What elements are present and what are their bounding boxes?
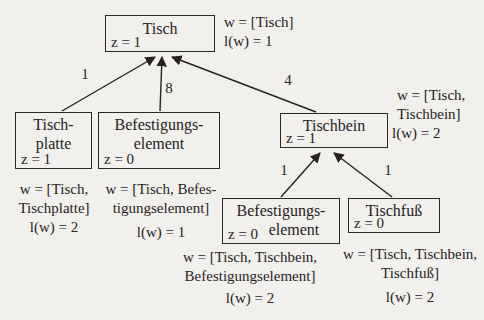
annotation-tischfuss-w-line1: w = [Tisch, Tischbein,	[336, 245, 484, 264]
edge-weight-tisch-tischbein: 4	[284, 73, 292, 88]
annotation-tischplatte-w-line2: Tischplatte]	[8, 199, 100, 218]
node-befestigungselement-1-z-value: z = 0	[104, 151, 134, 168]
edge-weight-tisch-tischplatte: 1	[81, 67, 89, 82]
annotation-tischfuss: w = [Tisch, Tischbein, Tischfuß] l(w) = …	[336, 245, 484, 307]
node-tischbein-z-value: z = 1	[286, 130, 316, 147]
annotation-befestigungselement-2-w-line2: Befestigungselement]	[166, 267, 334, 286]
node-tischfuss-z-value: z = 0	[354, 215, 384, 232]
edge-tisch-befestigungselement	[160, 57, 162, 111]
annotation-tisch-lw: l(w) = 1	[224, 32, 294, 51]
node-tischplatte-title-line1: Tisch-	[16, 113, 91, 134]
edge-weight-tisch-befestigungselement: 8	[165, 81, 173, 96]
annotation-tisch-w: w = [Tisch]	[224, 13, 294, 32]
node-befestigungselement-2-z-value: z = 0	[228, 226, 258, 243]
concept-tree-diagram: 1 8 4 1 1 Tisch z = 1 Tisch- platte z = …	[0, 0, 484, 320]
annotation-tischbein-lw: l(w) = 2	[392, 124, 465, 143]
annotation-tischplatte-w-line1: w = [Tisch,	[8, 180, 100, 199]
edge-tisch-tischplatte	[62, 57, 155, 111]
annotation-tischfuss-w-line2: Tischfuß]	[336, 264, 484, 283]
node-befestigungselement-2-title-line1: Befestigungs-	[223, 199, 339, 220]
annotation-befestigungselement-1-lw: l(w) = 1	[97, 223, 225, 242]
node-tischfuss: Tischfuß z = 0	[348, 198, 440, 233]
annotation-befestigungselement-1-w-line1: w = [Tisch, Befes-	[97, 180, 225, 199]
annotation-befestigungselement-1-w-line2: tigungselement]	[97, 199, 225, 218]
annotation-befestigungselement-2-lw: l(w) = 2	[166, 289, 334, 308]
annotation-tischplatte: w = [Tisch, Tischplatte] l(w) = 2	[8, 180, 100, 237]
annotation-tischbein-w-line1: w = [Tisch,	[392, 86, 465, 105]
node-tischbein: Tischbein z = 1	[280, 113, 388, 148]
edge-weight-tischbein-tischfuss: 1	[384, 163, 392, 178]
node-tisch-z-value: z = 1	[111, 34, 141, 51]
annotation-tischbein-w-line2: Tischbein]	[392, 105, 465, 124]
node-befestigungselement-1-title-line1: Befestigungs-	[99, 113, 219, 134]
annotation-tisch: w = [Tisch] l(w) = 1	[224, 13, 294, 51]
annotation-befestigungselement-2-w-line1: w = [Tisch, Tischbein,	[166, 248, 334, 267]
node-tisch: Tisch z = 1	[105, 15, 215, 52]
edge-tisch-tischbein	[172, 57, 316, 112]
annotation-tischplatte-lw: l(w) = 2	[8, 218, 100, 237]
annotation-tischbein: w = [Tisch, Tischbein] l(w) = 2	[392, 86, 465, 143]
node-befestigungselement-1: Befestigungs- element z = 0	[98, 112, 220, 169]
edge-weight-tischbein-befestigungselement: 1	[280, 163, 288, 178]
node-befestigungselement-2: Befestigungs- element z = 0	[222, 198, 340, 244]
annotation-befestigungselement-1: w = [Tisch, Befes- tigungselement] l(w) …	[97, 180, 225, 242]
annotation-tischfuss-lw: l(w) = 2	[336, 288, 484, 307]
node-tischplatte: Tisch- platte z = 1	[15, 112, 92, 169]
annotation-befestigungselement-2: w = [Tisch, Tischbein, Befestigungseleme…	[166, 248, 334, 308]
node-tischplatte-z-value: z = 1	[21, 151, 51, 168]
